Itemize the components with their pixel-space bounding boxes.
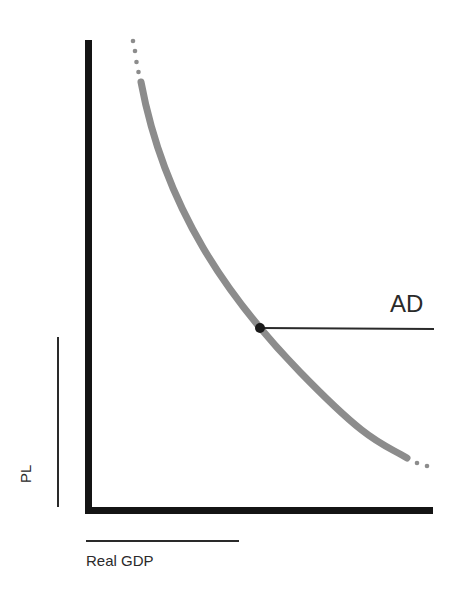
- aggregate-demand-diagram: AD Real GDP PL: [0, 0, 459, 594]
- aggregate-demand-curve: [141, 82, 407, 458]
- y-axis-label: PL: [17, 465, 34, 483]
- curve-label-ad: AD: [390, 290, 423, 318]
- curve-bottom-dots: [415, 461, 430, 469]
- label-leader-dot: [255, 323, 265, 333]
- y-axis: [85, 40, 92, 514]
- x-axis: [85, 507, 433, 514]
- x-axis-label: Real GDP: [86, 552, 154, 569]
- curve-top-dots: [131, 39, 141, 75]
- label-leader-line: [260, 328, 434, 329]
